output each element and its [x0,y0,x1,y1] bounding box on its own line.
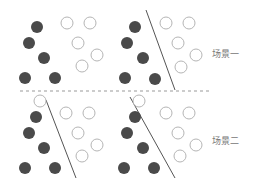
scene-1-label: 场景一 [212,47,239,60]
filled-point [148,162,160,174]
open-point [160,17,172,29]
open-point [172,127,184,139]
filled-point [23,37,35,49]
open-point [91,139,103,151]
open-point [183,17,195,29]
open-point [190,139,202,151]
open-point [175,61,187,73]
open-point [61,17,73,29]
filled-point [31,21,43,33]
open-point [60,107,72,119]
filled-point [121,37,133,49]
open-point [91,49,103,61]
filled-point [129,111,141,123]
open-point [190,49,202,61]
scene-2-label: 场景二 [212,134,239,147]
filled-point [129,21,141,33]
filled-point [119,72,131,84]
filled-point [137,52,149,64]
open-point [160,107,172,119]
panel-bottom-left [19,95,103,178]
filled-point [30,111,42,123]
open-point [174,150,186,162]
filled-point [38,142,50,154]
open-point [183,107,195,119]
open-point [83,107,95,119]
open-point [72,127,84,139]
filled-point [118,162,130,174]
panel-top-right [119,10,202,90]
filled-point [137,142,149,154]
filled-point [19,72,31,84]
open-point [76,60,88,72]
open-point [76,150,88,162]
filled-point [23,127,35,139]
open-point [133,95,145,107]
filled-point [49,72,61,84]
diagram-canvas [0,0,256,191]
panel-top-left [19,17,103,84]
open-point [172,37,184,49]
filled-point [149,73,161,85]
open-point [84,17,96,29]
filled-point [49,162,61,174]
panel-bottom-right [118,95,202,178]
open-point [34,95,46,107]
open-point [72,37,84,49]
filled-point [38,52,50,64]
filled-point [19,162,31,174]
classification-diagram: 场景一 场景二 [0,0,256,191]
filled-point [121,127,133,139]
